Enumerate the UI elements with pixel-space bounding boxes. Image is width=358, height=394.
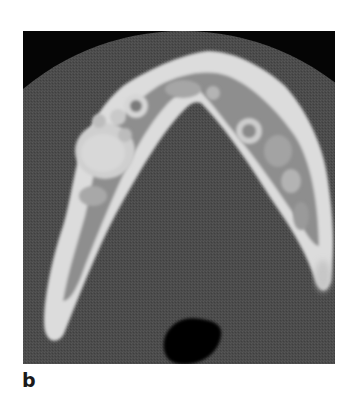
figure-panel: b [0, 0, 358, 394]
ct-scan-image [23, 31, 335, 364]
panel-label: b [22, 369, 36, 391]
